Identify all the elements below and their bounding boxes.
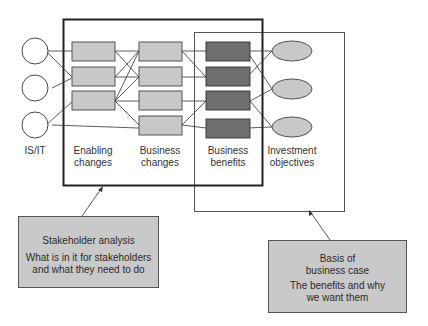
label-line: changes xyxy=(63,157,123,169)
enabling-change-box xyxy=(72,42,115,61)
callout-title: Basis of xyxy=(269,253,406,265)
label-business-changes: Business changes xyxy=(130,145,190,169)
arrowhead-icon xyxy=(98,186,103,192)
investment-objective-node xyxy=(272,79,312,99)
investment-objective-node xyxy=(272,117,312,137)
business-benefit-box xyxy=(206,119,250,138)
label-investment-objectives: Investment objectives xyxy=(262,145,322,169)
is-it-node xyxy=(22,75,48,101)
label-is-it-text: IS/IT xyxy=(24,145,45,156)
stakeholder-arrow xyxy=(82,189,101,216)
label-line: benefits xyxy=(198,157,258,169)
label-business-benefits: Business benefits xyxy=(198,145,258,169)
label-line: Business xyxy=(130,145,190,157)
label-line: Enabling xyxy=(63,145,123,157)
label-is-it: IS/IT xyxy=(16,145,54,157)
callout-text: and what they need to do xyxy=(19,264,158,276)
business-case-arrow xyxy=(311,213,330,240)
stakeholder-analysis-callout: Stakeholder analysis What is in it for s… xyxy=(18,216,159,288)
callout-text: we want them xyxy=(269,292,406,304)
is-it-node xyxy=(22,112,48,138)
investment-objective-node xyxy=(272,41,312,61)
business-benefit-box xyxy=(206,91,250,110)
business-change-box xyxy=(139,67,182,86)
business-case-callout: Basis of business case The benefits and … xyxy=(268,240,407,313)
enabling-change-box xyxy=(72,91,115,110)
callout-text: The benefits and why xyxy=(269,280,406,292)
label-line: changes xyxy=(130,157,190,169)
label-enabling-changes: Enabling changes xyxy=(63,145,123,169)
label-line: Investment xyxy=(262,145,322,157)
business-benefit-box xyxy=(206,42,250,61)
is-it-node xyxy=(22,38,48,64)
callout-title: Stakeholder analysis xyxy=(19,235,158,247)
enabling-change-box xyxy=(72,67,115,86)
business-benefit-box xyxy=(206,67,250,86)
callout-title: business case xyxy=(269,265,406,277)
label-line: Business xyxy=(198,145,258,157)
business-change-box xyxy=(139,116,182,135)
label-line: objectives xyxy=(262,157,322,169)
business-change-box xyxy=(139,42,182,61)
business-change-box xyxy=(139,91,182,110)
callout-text: What is in it for stakeholders xyxy=(19,252,158,264)
